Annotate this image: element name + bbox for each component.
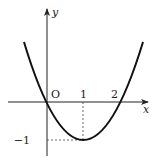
y-axis-label: y (51, 6, 59, 19)
x-tick-label-1: 1 (80, 88, 87, 101)
x-axis-label: x (143, 103, 150, 116)
parabola-chart: y x O 1 2 −1 (0, 0, 154, 162)
x-tick-label-2: 2 (111, 88, 118, 101)
origin-label: O (51, 88, 60, 101)
y-tick-label-neg1: −1 (14, 134, 30, 147)
